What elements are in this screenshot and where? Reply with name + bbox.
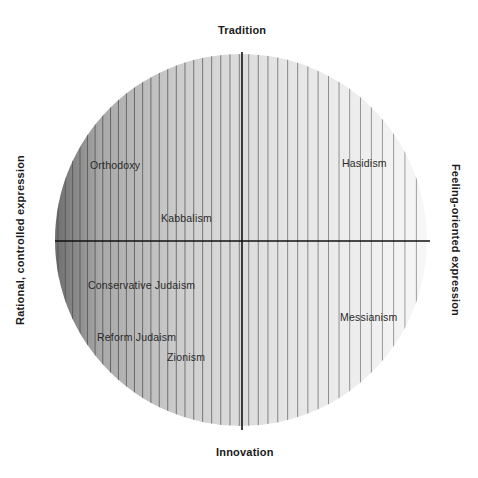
axis-label-top: Tradition — [218, 24, 266, 36]
item-reform-judaism: Reform Judaism — [97, 331, 176, 343]
item-zionism: Zionism — [167, 351, 205, 363]
item-conservative-judaism: Conservative Judaism — [88, 279, 195, 291]
axis-label-right: Feeling-oriented expression — [450, 150, 462, 330]
diagram-canvas: Tradition Innovation Rational, controlle… — [0, 0, 478, 478]
item-messianism: Messianism — [340, 311, 397, 323]
item-orthodoxy: Orthodoxy — [90, 159, 140, 171]
axis-label-left: Rational, controlled expression — [14, 150, 26, 330]
item-hasidism: Hasidism — [342, 157, 387, 169]
circle-diagram — [0, 0, 478, 478]
axis-label-bottom: Innovation — [216, 446, 274, 458]
item-kabbalism: Kabbalism — [161, 212, 212, 224]
